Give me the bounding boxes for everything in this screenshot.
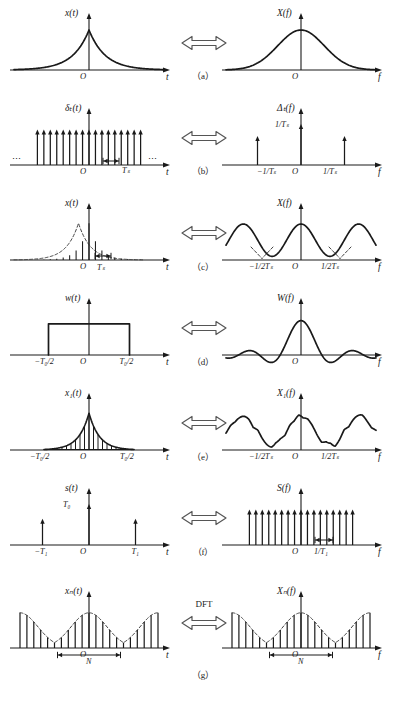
x-axis-label: t <box>166 651 169 661</box>
transform-arrow-e <box>176 413 232 433</box>
row-caption-b: （b） <box>0 167 406 176</box>
ellipsis-right: ⋯ <box>148 155 158 164</box>
amplitude-label: T₀ <box>63 501 70 509</box>
y-axis-label: X(f) <box>277 199 292 209</box>
y-axis-label: W(f) <box>277 294 294 304</box>
x-axis-label: f <box>378 651 381 661</box>
transform-arrow-d <box>176 318 232 338</box>
y-axis-label: X₁(f) <box>277 389 295 399</box>
row-caption-a: （a） <box>0 72 406 81</box>
y-axis-label: X(f) <box>277 9 292 19</box>
row-caption-e: （e） <box>0 453 406 462</box>
row-caption-g: （g） <box>0 671 406 680</box>
y-axis-label: S(f) <box>277 484 291 494</box>
transform-arrow-a <box>176 33 232 53</box>
transform-pair-row-c: x(t)tOTₛX(f)fO−1/2Tₛ1/2Tₛ <box>0 198 406 293</box>
transform-pair-row-e: x₁(t)tO−T₀/2T₀/2X₁(f)fO−1/2Tₛ1/2Tₛ <box>0 388 406 483</box>
plot-canvas <box>8 586 186 664</box>
row-caption-f: （f） <box>0 548 406 557</box>
transform-pair-row-b: δₜ(t)tO⋯⋯TₛΔₜ(f)fO1/Tₛ−1/Tₛ1/Tₛ <box>0 103 406 198</box>
transform-pair-row-a: x(t)tOX(f)fO <box>0 8 406 103</box>
plot-discrete-periodic-sequence: xₙ(t)tON <box>8 586 186 664</box>
row-caption-d: （d） <box>0 358 406 367</box>
ellipsis-left: ⋯ <box>12 155 22 164</box>
y-axis-label: w(t) <box>65 294 80 304</box>
y-axis-label: s(t) <box>65 484 78 494</box>
transform-pair-row-f: s(t)tOT₀−T₁T₁S(f)fO1/T₁ <box>0 483 406 578</box>
y-axis-label: x₁(t) <box>65 389 82 399</box>
transform-arrow-c <box>176 223 232 243</box>
y-axis-label: δₜ(t) <box>65 104 81 114</box>
transform-arrow-g <box>176 613 232 633</box>
plot-canvas <box>220 586 398 664</box>
plot-discrete-periodic-spectrum: Xₙ(f)fON <box>220 586 398 664</box>
y-axis-label: Xₙ(f) <box>277 587 296 597</box>
amplitude-label: 1/Tₛ <box>275 121 289 129</box>
transform-pair-row-d: w(t)tO−T₀/2T₀/2W(f)fO <box>0 293 406 388</box>
y-axis-label: Δₜ(f) <box>277 104 295 114</box>
axis-tick-label: N <box>298 658 303 666</box>
transform-arrow-b <box>176 128 232 148</box>
axis-tick-label: N <box>86 658 91 666</box>
transform-arrow-f <box>176 508 232 528</box>
row-caption-c: （c） <box>0 263 406 272</box>
arrow-caption-g: DFT <box>176 600 232 609</box>
y-axis-label: x(t) <box>65 199 78 209</box>
y-axis-label: x(t) <box>65 9 78 19</box>
y-axis-label: xₙ(t) <box>65 587 82 597</box>
